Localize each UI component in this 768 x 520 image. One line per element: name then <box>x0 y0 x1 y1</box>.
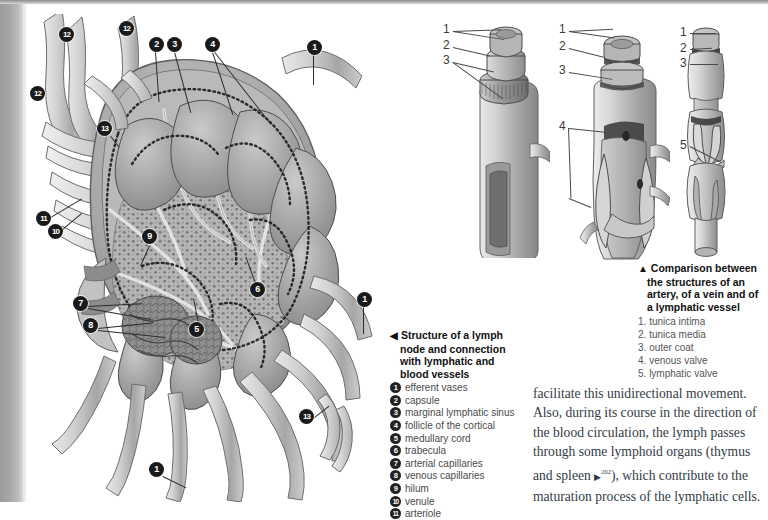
vessels-legend-item: 1. tunica intima <box>638 315 764 328</box>
vessels-caption-title: ▲ Comparison between the structures of a… <box>638 262 764 313</box>
callout-5-medullary-cord[interactable]: 5 <box>189 322 204 337</box>
legend-marker: 4 <box>390 420 401 431</box>
artery-label-2: 2 <box>443 38 450 52</box>
legend-label: follicle of the cortical <box>405 420 495 431</box>
legend-label: venule <box>405 496 434 507</box>
vessels-caption-line-1: Comparison between <box>651 262 757 274</box>
lymph-node-caption-line-4: blood vessels <box>390 368 469 381</box>
legend-item: 11 arteriole <box>390 507 535 520</box>
callout-11-arteriole[interactable]: 11 <box>36 211 51 226</box>
callout-9-hilum[interactable]: 9 <box>142 229 157 244</box>
legend-marker: 5 <box>390 433 401 444</box>
legend-item: 7 arterial capillaries <box>390 457 535 470</box>
lymph-node-caption-title: ◀ Structure of a lymph node and connecti… <box>390 329 535 380</box>
lymphatic-label-1-leader <box>690 33 716 34</box>
lymph-node-caption: ◀ Structure of a lymph node and connecti… <box>390 329 535 520</box>
lymphatic-label-3-leader <box>690 64 718 65</box>
lymphatic-label-2: 2 <box>680 41 687 55</box>
artery-label-1: 1 <box>443 22 450 36</box>
legend-marker: 8 <box>390 470 401 481</box>
vein-label-3: 3 <box>559 63 566 77</box>
legend-item: 9 hilum <box>390 482 535 495</box>
vein-label-1: 1 <box>559 22 566 36</box>
legend-item: 3 marginal lymphatic sinus <box>390 407 535 420</box>
legend-label: venous capillaries <box>405 470 485 481</box>
page-reference: 202 <box>601 468 611 475</box>
vessels-caption: ▲ Comparison between the structures of a… <box>638 262 764 380</box>
vessels-legend-num: 1. <box>638 316 646 327</box>
callout-3-sinus[interactable]: 3 <box>167 37 182 52</box>
vein-label-4: 4 <box>559 119 566 133</box>
legend-marker: 9 <box>390 483 401 494</box>
callout-leader <box>313 55 314 85</box>
callout-12-afferent-b[interactable]: 12 <box>119 21 134 36</box>
legend-label: capsule <box>405 395 439 406</box>
triangle-left-icon: ◀ <box>390 330 398 341</box>
lymph-node-caption-line-1: Structure of a lymph <box>401 329 503 341</box>
lymphatic-label-3: 3 <box>680 56 687 70</box>
vessels-legend-label: tunica media <box>649 329 706 340</box>
legend-item: 4 follicle of the cortical <box>390 419 535 432</box>
vessels-caption-line-4: a lymphatic vessel <box>638 301 740 314</box>
legend-marker: 6 <box>390 445 401 456</box>
vessels-legend-label: outer coat <box>649 342 693 353</box>
lymphatic-label-5: 5 <box>680 138 687 152</box>
legend-marker: 10 <box>390 496 401 507</box>
vessels-legend-label: tunica intima <box>649 316 705 327</box>
callout-1-right[interactable]: 1 <box>357 292 372 307</box>
vessels-legend-num: 3. <box>638 342 646 353</box>
legend-marker: 11 <box>390 508 401 519</box>
lymph-node-illustration <box>14 14 394 502</box>
vein-label-4-leader-b <box>568 128 571 198</box>
vessels-legend-item: 3. outer coat <box>638 341 764 354</box>
legend-label: arterial capillaries <box>405 458 483 469</box>
vessels-legend-num: 2. <box>638 329 646 340</box>
vessels-legend-item: 2. tunica media <box>638 328 764 341</box>
lymph-node-caption-line-3: with lymphatic and <box>390 355 495 368</box>
callout-leader <box>363 306 364 334</box>
callout-6-trabecula[interactable]: 6 <box>250 282 265 297</box>
lymphatic-label-1: 1 <box>680 25 687 39</box>
legend-item: 2 capsule <box>390 394 535 407</box>
triangle-up-icon: ▲ <box>638 263 648 274</box>
legend-label: hilum <box>405 483 429 494</box>
callout-7-arterial-capillaries[interactable]: 7 <box>73 296 88 311</box>
vessels-legend-label: venous valve <box>649 355 707 366</box>
vessels-legend-label: lymphatic valve <box>649 368 717 379</box>
vessels-legend-item: 5. lymphatic valve <box>638 367 764 380</box>
callout-12-afferent-a[interactable]: 12 <box>59 27 74 42</box>
callout-1-bottom[interactable]: 1 <box>149 462 164 477</box>
vessels-caption-line-3: artery, of a vein and of <box>638 288 758 301</box>
legend-label: marginal lymphatic sinus <box>405 407 515 418</box>
legend-label: medullary cord <box>405 433 471 444</box>
callout-10-venule[interactable]: 10 <box>48 224 63 239</box>
legend-marker: 1 <box>390 382 401 393</box>
legend-marker: 3 <box>390 407 401 418</box>
vessels-legend: 1. tunica intima 2. tunica media 3. oute… <box>638 315 764 380</box>
legend-item: 6 trabecula <box>390 444 535 457</box>
legend-item: 8 venous capillaries <box>390 470 535 483</box>
vessels-legend-item: 4. venous valve <box>638 354 764 367</box>
legend-label: arteriole <box>405 508 441 519</box>
vessels-caption-line-2: the structures of an <box>638 276 745 289</box>
legend-marker: 2 <box>390 395 401 406</box>
lymph-node-caption-line-2: node and connection <box>390 343 506 356</box>
lymph-node-legend: 1 efferent vases 2 capsule 3 marginal ly… <box>390 381 535 520</box>
callout-1-top[interactable]: 1 <box>307 40 322 55</box>
legend-label: trabecula <box>405 445 446 456</box>
callout-12-afferent-c[interactable]: 12 <box>30 86 45 101</box>
legend-item: 5 medullary cord <box>390 432 535 445</box>
legend-item: 10 venule <box>390 495 535 508</box>
legend-marker: 7 <box>390 458 401 469</box>
artery-label-3: 3 <box>443 53 450 67</box>
callout-4-follicle[interactable]: 4 <box>205 37 220 52</box>
vessels-legend-num: 5. <box>638 368 646 379</box>
vessels-legend-num: 4. <box>638 355 646 366</box>
callout-2-capsule[interactable]: 2 <box>149 37 164 52</box>
legend-label: efferent vases <box>405 382 468 393</box>
callout-13-valve-a[interactable]: 13 <box>97 121 112 136</box>
callout-8-venous-capillaries[interactable]: 8 <box>83 318 98 333</box>
vein-label-2: 2 <box>559 39 566 53</box>
callout-13-valve-b[interactable]: 13 <box>299 409 314 424</box>
